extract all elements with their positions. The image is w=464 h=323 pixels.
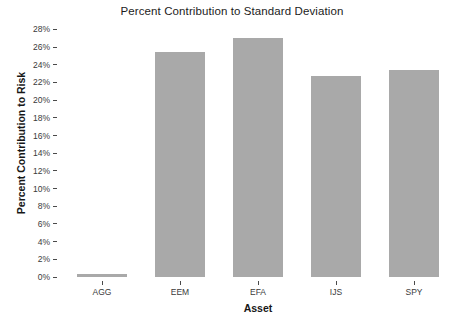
y-axis-tick-mark — [53, 206, 57, 207]
x-axis-title: Asset — [63, 302, 453, 314]
x-axis-tick: AGG — [72, 281, 132, 297]
x-axis-tick: IJS — [306, 281, 366, 297]
y-axis-tick-label: 18% — [33, 112, 50, 124]
bar-ijs — [311, 76, 361, 277]
y-axis-tick-label: 4% — [38, 236, 50, 248]
y-axis-tick: 8% — [0, 200, 63, 212]
y-axis-tick-mark — [53, 135, 57, 136]
y-axis-tick-label: 26% — [33, 41, 50, 53]
x-axis-tick-label: EFA — [228, 287, 288, 297]
y-axis-tick-label: 22% — [33, 76, 50, 88]
y-axis-tick: 16% — [0, 130, 63, 142]
y-axis-tick-label: 6% — [38, 218, 50, 230]
y-axis-tick-mark — [53, 82, 57, 83]
y-axis-tick: 22% — [0, 76, 63, 88]
y-axis-tick-mark — [53, 29, 57, 30]
x-axis-tick: SPY — [384, 281, 444, 297]
y-axis-tick-mark — [53, 170, 57, 171]
y-axis-tick: 14% — [0, 147, 63, 159]
y-axis-tick: 6% — [0, 218, 63, 230]
y-axis-tick: 4% — [0, 236, 63, 248]
y-axis-tick-mark — [53, 153, 57, 154]
x-axis-tick: EEM — [150, 281, 210, 297]
y-axis-tick-mark — [53, 47, 57, 48]
bar-agg — [77, 274, 127, 277]
x-axis-tick-mark — [414, 281, 415, 285]
y-axis-tick-mark — [53, 100, 57, 101]
y-axis-tick: 18% — [0, 112, 63, 124]
y-axis-tick: 12% — [0, 165, 63, 177]
y-axis-tick-mark — [53, 64, 57, 65]
y-axis-tick-label: 0% — [38, 271, 50, 283]
y-axis-tick-label: 20% — [33, 94, 50, 106]
y-axis-tick: 20% — [0, 94, 63, 106]
bar-eem — [155, 52, 205, 277]
y-axis-tick: 2% — [0, 253, 63, 265]
y-axis-tick-label: 2% — [38, 253, 50, 265]
bar-spy — [389, 70, 439, 277]
y-axis-tick: 26% — [0, 41, 63, 53]
x-axis-tick-mark — [102, 281, 103, 285]
x-axis-tick-label: IJS — [306, 287, 366, 297]
x-axis-tick-label: EEM — [150, 287, 210, 297]
x-axis-tick-mark — [258, 281, 259, 285]
x-axis-tick-mark — [180, 281, 181, 285]
y-axis-tick: 10% — [0, 183, 63, 195]
y-axis-tick-label: 12% — [33, 165, 50, 177]
y-axis-tick-mark — [53, 259, 57, 260]
chart-title: Percent Contribution to Standard Deviati… — [0, 5, 464, 17]
x-axis-tick: EFA — [228, 281, 288, 297]
x-axis-tick-mark — [336, 281, 337, 285]
y-axis-tick-mark — [53, 277, 57, 278]
x-axis-tick-label: SPY — [384, 287, 444, 297]
y-axis-tick-mark — [53, 117, 57, 118]
x-axis-tick-label: AGG — [72, 287, 132, 297]
y-axis-tick-mark — [53, 188, 57, 189]
y-axis-tick: 0% — [0, 271, 63, 283]
y-axis-tick-label: 8% — [38, 200, 50, 212]
y-axis-tick-label: 16% — [33, 130, 50, 142]
y-axis-tick-label: 24% — [33, 59, 50, 71]
y-axis-tick-mark — [53, 241, 57, 242]
plot-area: 0%2%4%6%8%10%12%14%16%18%20%22%24%26%28%… — [63, 25, 453, 277]
y-axis-tick-label: 28% — [33, 23, 50, 35]
y-axis-tick: 28% — [0, 23, 63, 35]
y-axis-tick-label: 10% — [33, 183, 50, 195]
y-axis-tick-label: 14% — [33, 147, 50, 159]
y-axis-tick-mark — [53, 223, 57, 224]
bar-chart: Percent Contribution to Standard Deviati… — [0, 0, 464, 323]
bar-efa — [233, 38, 283, 277]
y-axis-tick: 24% — [0, 59, 63, 71]
